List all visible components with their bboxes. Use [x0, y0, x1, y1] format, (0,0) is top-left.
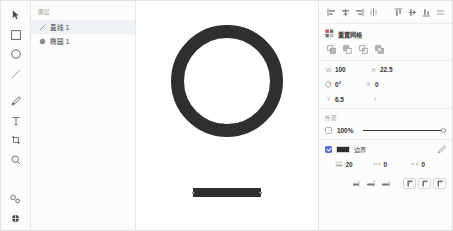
width-value: 100 [335, 66, 346, 73]
text-tool[interactable] [5, 113, 27, 130]
stroke-gap-value: 0 [422, 161, 426, 168]
boolean-union-button[interactable] [326, 44, 337, 55]
canvas-shape-ellipse[interactable] [171, 25, 283, 137]
dash-icon [373, 160, 381, 168]
opacity-slider[interactable] [363, 127, 446, 134]
distribute-v-button[interactable] [434, 6, 446, 18]
align-button-row [325, 6, 446, 18]
stroke-color-swatch[interactable] [336, 146, 350, 153]
stroke-dash-field[interactable]: 0 [373, 160, 407, 168]
select-tool[interactable] [5, 7, 27, 24]
align-section [319, 1, 452, 24]
opacity-row: 100% [325, 127, 446, 134]
x-label: X [365, 81, 372, 87]
rotation-field[interactable]: 0° [325, 80, 365, 88]
boolean-ops-row [325, 44, 446, 55]
align-right-button[interactable] [353, 6, 365, 18]
align-middle-button[interactable] [406, 6, 418, 18]
width-field[interactable]: W 100 [325, 66, 370, 73]
stroke-checkbox[interactable] [325, 146, 332, 153]
stroke-gap-field[interactable]: 0 [411, 160, 445, 168]
pen-tool[interactable] [5, 93, 27, 110]
zoom-tool[interactable] [5, 152, 27, 169]
stroke-width-field[interactable]: 20 [335, 160, 369, 168]
width-label: W [325, 67, 332, 73]
layers-panel: 图层 直线 1 椭圆 1 [31, 1, 136, 230]
height-label: H [370, 67, 377, 73]
align-center-h-button[interactable] [339, 6, 351, 18]
line-tool[interactable] [5, 66, 27, 83]
cap-butt-button[interactable] [350, 178, 363, 189]
cap-join-row [325, 178, 446, 189]
layer-item-label: 直线 1 [50, 22, 69, 32]
appearance-section: 外观 100% [319, 109, 452, 140]
stroke-width-value: 20 [346, 161, 353, 168]
cap-join-section [319, 173, 452, 194]
app-window: 图层 直线 1 椭圆 1 [0, 0, 453, 231]
line-icon [38, 23, 46, 31]
selection-handle-right[interactable] [259, 191, 263, 195]
opacity-slider-knob[interactable] [441, 128, 447, 134]
rotation-value: 0° [335, 81, 341, 88]
tool-rail [1, 1, 31, 230]
rotate-icon [325, 80, 332, 88]
gap-icon [411, 160, 419, 168]
stroke-dash-value: 0 [384, 161, 388, 168]
layer-item-ellipse[interactable]: 椭圆 1 [31, 34, 135, 48]
distribute-h-button[interactable] [367, 6, 379, 18]
stroke-section: 边界 20 0 [319, 140, 452, 173]
grid-label: 重置网格 [338, 30, 362, 39]
stroke-width-icon [335, 160, 343, 168]
settings-tool[interactable] [5, 211, 27, 228]
ellipse-tool[interactable] [5, 46, 27, 63]
stroke-fields: 20 0 0 [325, 160, 446, 168]
opacity-slider-track [363, 130, 446, 131]
canvas-shape-line-selection[interactable] [193, 188, 261, 197]
grid-section: 重置网格 [319, 24, 452, 61]
canvas-shape-line[interactable] [193, 188, 261, 197]
y-value: 6.5 [335, 96, 344, 103]
transform-section: W 100 H 22.5 0° X 0 Y [319, 61, 452, 109]
cap-square-button[interactable] [380, 178, 393, 189]
y-label: Y [325, 96, 332, 102]
cap-round-button[interactable] [365, 178, 378, 189]
grid-header[interactable]: 重置网格 [325, 29, 446, 39]
boolean-intersect-button[interactable] [358, 44, 369, 55]
boolean-exclude-button[interactable] [374, 44, 385, 55]
join-bevel-button[interactable] [433, 178, 446, 189]
cap-join-divider [395, 178, 401, 189]
y-field[interactable]: Y 6.5 [325, 96, 370, 103]
appearance-title: 外观 [325, 114, 446, 122]
circle-icon [38, 37, 46, 45]
canvas-area[interactable] [136, 1, 319, 230]
crop-tool[interactable] [5, 132, 27, 149]
x-value: 0 [375, 81, 379, 88]
selection-handle-left[interactable] [192, 191, 196, 195]
boolean-subtract-button[interactable] [342, 44, 353, 55]
grid-icon [325, 29, 334, 39]
align-left-button[interactable] [325, 6, 337, 18]
link-tool[interactable] [5, 191, 27, 208]
align-bottom-button[interactable] [420, 6, 432, 18]
height-value: 22.5 [380, 66, 392, 73]
transform-fields: W 100 H 22.5 0° X 0 Y [325, 66, 446, 103]
layers-panel-title: 图层 [31, 6, 135, 20]
stroke-header: 边界 [325, 145, 446, 154]
inspector-panel: 重置网格 W 100 [319, 1, 452, 230]
align-top-button[interactable] [392, 6, 404, 18]
eyedropper-icon[interactable] [437, 145, 446, 154]
layer-item-line[interactable]: 直线 1 [31, 20, 135, 34]
join-miter-button[interactable] [403, 178, 416, 189]
opacity-value: 100% [337, 127, 358, 134]
opacity-checkbox[interactable] [325, 127, 332, 134]
layer-item-label: 椭圆 1 [50, 36, 69, 46]
height-field[interactable]: H 22.5 [370, 66, 415, 73]
link-constrain-icon[interactable] [370, 95, 380, 103]
join-round-button[interactable] [418, 178, 431, 189]
rectangle-tool[interactable] [5, 27, 27, 44]
x-field[interactable]: X 0 [365, 81, 410, 88]
stroke-label: 边界 [354, 145, 366, 154]
